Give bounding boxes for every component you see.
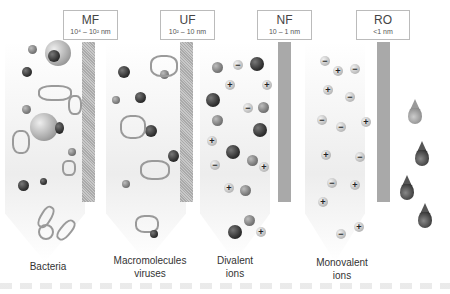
divalent-ion-icon (247, 155, 258, 166)
caption-bacteria: Bacteria (18, 260, 78, 273)
negative-ion-icon: − (345, 92, 355, 102)
water-drop-icon (415, 148, 429, 166)
divalent-ion-icon (212, 115, 223, 126)
water-drop-icon (418, 210, 432, 228)
macromolecule-icon (118, 66, 130, 78)
mf-title: MF (64, 13, 117, 27)
caption-macromolecules-viruses: Macromolecules viruses (105, 254, 195, 280)
water-drop-icon (408, 106, 422, 124)
ro-label-box: RO <1 nm (356, 10, 410, 40)
divalent-cation-cluster-icon (250, 57, 264, 71)
positive-ion-icon: + (323, 85, 333, 95)
positive-ion-icon: + (207, 136, 217, 146)
particle-icon (18, 180, 29, 191)
negative-ion-icon: − (355, 152, 365, 162)
positive-ion-icon: + (354, 222, 364, 232)
macromolecule-icon (145, 125, 157, 137)
particle-icon (48, 50, 60, 62)
divalent-cation-cluster-icon (228, 225, 242, 239)
divalent-cation-cluster-icon (253, 123, 267, 137)
ro-range: <1 nm (357, 27, 409, 36)
ro-title: RO (357, 13, 409, 27)
uf-membrane (180, 42, 193, 202)
negative-ion-icon: − (243, 103, 253, 113)
uf-label-box: UF 10² – 10 nm (160, 10, 215, 40)
caption-monovalent-line1: Monovalent (307, 256, 377, 269)
caption-bacteria-text: Bacteria (30, 261, 67, 272)
caption-macromolecules-line1: Macromolecules (105, 254, 195, 267)
protein-strand-icon (12, 130, 30, 154)
divalent-ion-icon (258, 102, 269, 113)
negative-ion-icon: − (320, 56, 330, 66)
caption-divalent-line2: ions (205, 267, 265, 280)
particle-icon (22, 67, 32, 77)
particle-icon (40, 178, 47, 185)
divalent-cation-cluster-icon (206, 93, 220, 107)
protein-strand-icon (38, 85, 72, 101)
water-drop-icon (400, 182, 414, 200)
mf-label-box: MF 10⁴ – 10² nm (63, 10, 118, 40)
particle-icon (68, 148, 76, 156)
particle-icon (22, 105, 31, 114)
caption-monovalent-line2: ions (307, 269, 377, 282)
nf-label-box: NF 10 – 1 nm (257, 10, 312, 40)
uf-title: UF (161, 13, 214, 27)
particle-icon (28, 45, 37, 54)
divalent-ion-icon (240, 185, 251, 196)
mf-range: 10⁴ – 10² nm (64, 27, 117, 36)
positive-ion-icon: + (224, 183, 234, 193)
nf-range: 10 – 1 nm (258, 27, 311, 36)
ro-membrane (377, 42, 390, 202)
protein-strand-icon (68, 95, 82, 115)
bacterium-sphere-icon (30, 113, 58, 141)
uf-range: 10² – 10 nm (161, 27, 214, 36)
positive-ion-icon: + (256, 227, 266, 237)
bacterium-coccus-icon (38, 224, 54, 240)
negative-ion-icon: − (327, 178, 337, 188)
caption-macromolecules-line2: viruses (105, 267, 195, 280)
caption-divalent-line1: Divalent (205, 254, 265, 267)
caption-monovalent-ions: Monovalent ions (307, 256, 377, 282)
virus-icon (122, 180, 130, 188)
negative-ion-icon: − (233, 60, 243, 70)
positive-ion-icon: + (350, 180, 360, 190)
positive-ion-icon: + (333, 66, 343, 76)
negative-ion-icon: − (210, 160, 220, 170)
particle-icon (55, 122, 64, 134)
protein-strand-icon (62, 160, 76, 176)
macromolecule-strand-icon (150, 55, 178, 77)
negative-ion-icon: − (317, 115, 327, 125)
positive-ion-icon: + (361, 117, 371, 127)
divalent-ion-icon (212, 62, 223, 73)
macromolecule-icon (150, 230, 158, 238)
divalent-cation-cluster-icon (226, 145, 240, 159)
positive-ion-icon: + (259, 162, 269, 172)
positive-ion-icon: + (225, 80, 235, 90)
caption-divalent-ions: Divalent ions (205, 254, 265, 280)
macromolecule-strand-icon (120, 115, 146, 139)
positive-ion-icon: + (318, 197, 328, 207)
virus-icon (112, 96, 120, 104)
negative-ion-icon: − (350, 64, 360, 74)
positive-ion-icon: + (262, 80, 272, 90)
macromolecule-icon (168, 150, 179, 162)
divalent-ion-icon (244, 215, 255, 226)
negative-ion-icon: − (336, 229, 346, 239)
macromolecule-icon (135, 92, 146, 103)
nf-title: NF (258, 13, 311, 27)
cropped-figure-caption (0, 283, 450, 289)
mf-membrane (82, 42, 95, 202)
macromolecule-strand-icon (140, 160, 170, 180)
negative-ion-icon: − (336, 122, 346, 132)
nf-membrane (278, 42, 291, 202)
positive-ion-icon: + (321, 150, 331, 160)
